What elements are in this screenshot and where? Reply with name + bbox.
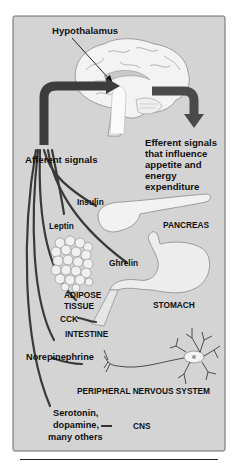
label-cns: CNS	[133, 421, 151, 431]
label-cck: CCK	[60, 314, 78, 324]
bottom-rule	[20, 459, 218, 460]
label-intestine: INTESTINE	[65, 329, 109, 339]
label-efferent-line-3: appetite and	[145, 159, 202, 170]
label-cns-signals-line-3: many others	[48, 432, 103, 442]
label-efferent-line-4: energy	[145, 170, 177, 181]
label-cns-signals-line-1: Serotonin,	[53, 408, 98, 418]
label-efferent-line-2: that influence	[145, 148, 207, 159]
appetite-regulation-diagram: Hypothalamus Afferent signals Efferent s…	[0, 0, 236, 465]
label-adipose-line-1: ADIPOSE	[64, 290, 102, 300]
label-efferent-line-5: expenditure	[145, 181, 199, 192]
label-pancreas: PANCREAS	[163, 220, 209, 230]
label-hypothalamus: Hypothalamus	[52, 25, 118, 36]
label-efferent-line-1: Efferent signals	[145, 137, 217, 148]
label-leptin: Leptin	[49, 221, 74, 231]
label-peripheral-nervous-system: PERIPHERAL NERVOUS SYSTEM	[77, 386, 210, 396]
label-ghrelin: Ghrelin	[109, 258, 138, 268]
label-norepinephrine: Norepinephrine	[26, 352, 94, 362]
label-stomach: STOMACH	[153, 300, 195, 310]
label-insulin: Insulin	[77, 197, 104, 207]
label-adipose-line-2: TISSUE	[64, 301, 94, 311]
label-cns-signals-line-2: dopamine,	[53, 420, 99, 430]
label-afferent-signals: Afferent signals	[25, 154, 98, 165]
